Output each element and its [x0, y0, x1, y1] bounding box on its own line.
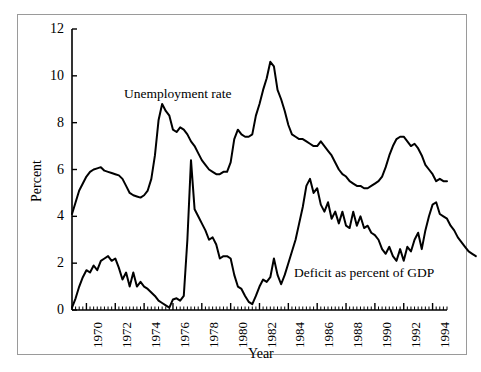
- x-tick-label-1980: 1980: [236, 322, 249, 348]
- y-tick-label-6: 6: [36, 163, 64, 177]
- y-tick-label-10: 10: [36, 69, 64, 83]
- series-line-deficit: [72, 160, 476, 308]
- chart-plot-area: [0, 0, 481, 372]
- x-tick-label-1984: 1984: [293, 322, 306, 348]
- x-tick-label-1972: 1972: [120, 322, 133, 348]
- series-line-unemployment: [72, 62, 447, 214]
- x-tick-label-1976: 1976: [178, 322, 191, 348]
- chart-page: Percent Year Unemployment rate Deficit a…: [0, 0, 481, 372]
- x-tick-label-1978: 1978: [207, 322, 220, 348]
- x-tick-label-1982: 1982: [265, 322, 278, 348]
- series-annotation-deficit: Deficit as percent of GDP: [294, 266, 434, 280]
- y-tick-label-2: 2: [36, 256, 64, 270]
- x-tick-label-1974: 1974: [149, 322, 162, 348]
- x-tick-label-1988: 1988: [351, 322, 364, 348]
- y-tick-label-8: 8: [36, 116, 64, 130]
- x-tick-label-1986: 1986: [322, 322, 335, 348]
- x-tick-label-1970: 1970: [91, 322, 104, 348]
- y-tick-label-4: 4: [36, 209, 64, 223]
- y-tick-label-0: 0: [36, 303, 64, 317]
- x-tick-label-1992: 1992: [409, 322, 422, 348]
- y-tick-label-12: 12: [36, 22, 64, 36]
- series-annotation-unemployment: Unemployment rate: [124, 87, 232, 101]
- x-axis-label: Year: [248, 347, 274, 361]
- x-tick-label-1990: 1990: [380, 322, 393, 348]
- x-tick-label-1994: 1994: [438, 322, 451, 348]
